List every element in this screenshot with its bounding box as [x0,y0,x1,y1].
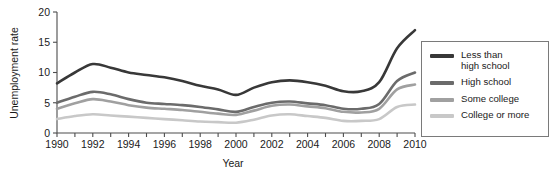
legend-color-swatch [430,81,454,85]
x-tick-label: 1994 [117,138,141,150]
x-tick-label: 1990 [45,138,69,150]
legend-item[interactable]: High school [430,76,544,87]
y-tick-label: 20 [38,6,50,18]
x-tick-label: 1996 [153,138,177,150]
legend-color-swatch [430,98,454,102]
x-axis-ticks: 1990199219941996199820002002200420062008… [45,133,427,150]
y-axis-ticks: 05101520 [38,6,57,139]
series-line-2 [57,85,415,115]
legend-color-swatch [430,54,454,58]
x-tick-label: 1992 [81,138,105,150]
legend-color-swatch [430,114,454,118]
x-tick-label: 1998 [189,138,213,150]
x-tick-label: 2008 [368,138,392,150]
legend: Less than high schoolHigh schoolSome col… [421,41,549,137]
legend-item-label: Less than high school [461,49,510,71]
legend-item-label: Some college [461,93,519,104]
unemployment-rate-line-chart: 05101520 1990199219941996199820002002200… [0,0,552,173]
y-tick-label: 15 [38,36,50,48]
x-tick-label: 2006 [332,138,356,150]
legend-item-label: College or more [461,109,529,120]
x-tick-label: 2000 [224,138,248,150]
legend-item[interactable]: Less than high school [430,49,544,71]
legend-item[interactable]: Some college [430,93,544,104]
x-tick-label: 2002 [260,138,284,150]
y-tick-label: 10 [38,66,50,78]
x-axis-title: Year [222,157,244,169]
x-tick-label: 2010 [403,138,427,150]
legend-item-label: High school [461,76,511,87]
x-tick-label: 2004 [296,138,320,150]
y-tick-label: 0 [44,127,50,139]
series-line-0 [57,30,415,95]
legend-item[interactable]: College or more [430,109,544,120]
y-tick-label: 5 [44,97,50,109]
y-axis-title: Unemployment rate [8,27,20,119]
legend-item-list: Less than high schoolHigh schoolSome col… [430,49,544,125]
series-lines [57,30,415,123]
